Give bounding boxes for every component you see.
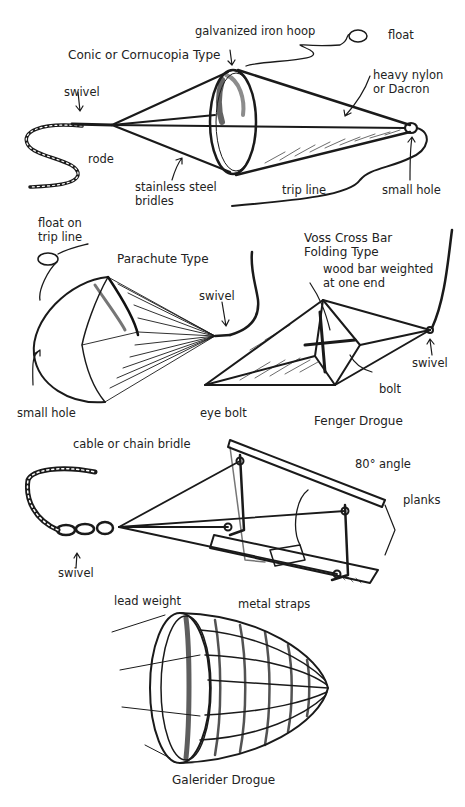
label-eye-bolt: eye bolt	[200, 407, 247, 420]
title-voss-line2: Folding Type	[304, 245, 379, 259]
title-conic-type: Conic or Cornucopia Type	[68, 48, 220, 62]
label-small-hole-conic: small hole	[382, 184, 441, 197]
label-metal-straps: metal straps	[238, 598, 310, 611]
label-float-on: float on	[38, 217, 82, 230]
label-planks: planks	[403, 494, 440, 507]
label-float: float	[388, 29, 414, 42]
label-swivel-parachute: swivel	[199, 290, 235, 303]
label-lead-weight: lead weight	[114, 595, 181, 608]
label-trip-line-float: trip line	[38, 231, 82, 244]
title-voss-line1: Voss Cross Bar	[304, 231, 392, 245]
label-swivel-fenger: swivel	[58, 567, 94, 580]
label-rode: rode	[88, 153, 114, 166]
label-heavy-nylon: heavy nylon	[373, 69, 443, 82]
label-cable-chain-bridle: cable or chain bridle	[73, 438, 191, 451]
parachute-drogue-drawing	[33, 244, 259, 402]
label-trip-line: trip line	[282, 184, 326, 197]
galerider-drogue-drawing	[112, 613, 328, 763]
label-80-angle: 80° angle	[355, 458, 411, 471]
label-swivel-voss: swivel	[412, 357, 448, 370]
label-bolt: bolt	[379, 383, 401, 396]
label-or-dacron: or Dacron	[373, 83, 429, 96]
title-fenger-drogue: Fenger Drogue	[314, 414, 403, 428]
label-small-hole-parachute: small hole	[17, 407, 76, 420]
drogue-illustrations	[0, 0, 465, 807]
fenger-drogue-drawing	[27, 440, 395, 583]
label-wood-bar: wood bar weighted	[323, 263, 433, 276]
label-swivel-conic: swivel	[64, 86, 100, 99]
label-bridles: bridles	[135, 195, 174, 208]
title-parachute-type: Parachute Type	[117, 252, 209, 266]
label-stainless-steel: stainless steel	[135, 181, 217, 194]
title-galerider-drogue: Galerider Drogue	[172, 773, 275, 787]
label-at-one-end: at one end	[323, 277, 385, 290]
label-galvanized-iron-hoop: galvanized iron hoop	[195, 25, 315, 38]
